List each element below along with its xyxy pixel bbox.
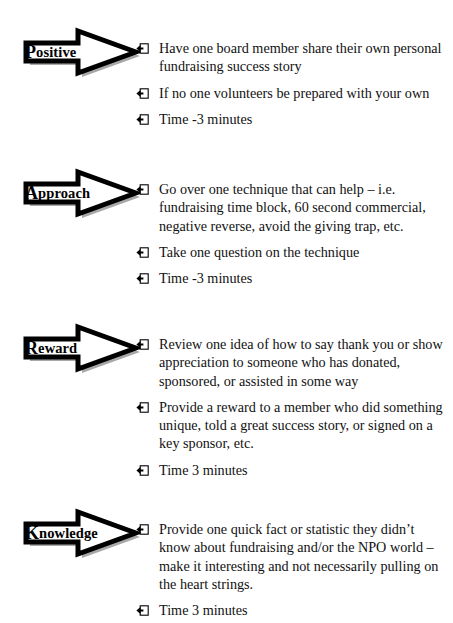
arrow-into-box-bullet-icon (136, 273, 149, 284)
arrow-into-box-bullet-icon (136, 88, 149, 99)
block-arrow-approach: Approach (18, 165, 143, 221)
arrow-label-positive: Positive (18, 24, 143, 80)
list-item-text: If no one volunteers be prepared with yo… (159, 84, 446, 102)
list-item-text: Provide a reward to a member who did som… (159, 398, 446, 453)
arrow-into-box-bullet-icon (136, 402, 149, 413)
arrow-label-initial: K (25, 524, 39, 542)
list-item-text: Time 3 minutes (159, 601, 446, 619)
bullet-list-knowledge: Provide one quick fact or statistic they… (136, 520, 446, 619)
list-item-text: Go over one technique that can help – i.… (159, 180, 446, 235)
list-item-text: Have one board member share their own pe… (159, 39, 446, 76)
arrow-label-initial: R (25, 339, 38, 357)
block-arrow-reward: Reward (18, 320, 143, 376)
arrow-into-box-bullet-icon (136, 524, 149, 535)
list-item: Provide one quick fact or statistic they… (136, 520, 446, 593)
list-item-text: Review one idea of how to say thank you … (159, 335, 446, 390)
list-item-text: Time 3 minutes (159, 461, 446, 479)
arrow-into-box-bullet-icon (136, 184, 149, 195)
arrow-label-rest: pproach (38, 186, 90, 201)
list-item: Time -3 minutes (136, 269, 446, 287)
list-item: Time -3 minutes (136, 110, 446, 128)
arrow-into-box-bullet-icon (136, 465, 149, 476)
arrow-into-box-bullet-icon (136, 43, 149, 54)
arrow-label-initial: P (25, 43, 36, 61)
list-item-text: Take one question on the technique (159, 243, 446, 261)
bullet-list-positive: Have one board member share their own pe… (136, 39, 446, 128)
list-item: Go over one technique that can help – i.… (136, 180, 446, 235)
arrow-into-box-bullet-icon (136, 114, 149, 125)
list-item: Take one question on the technique (136, 243, 446, 261)
arrow-label-reward: Reward (18, 320, 143, 376)
list-item: Time 3 minutes (136, 461, 446, 479)
list-item-text: Provide one quick fact or statistic they… (159, 520, 446, 593)
block-arrow-positive: Positive (18, 24, 143, 80)
arrow-into-box-bullet-icon (136, 247, 149, 258)
arrow-into-box-bullet-icon (136, 605, 149, 616)
slide-canvas: Positive Have one board member share the… (0, 0, 453, 623)
bullet-list-approach: Go over one technique that can help – i.… (136, 180, 446, 287)
list-item: If no one volunteers be prepared with yo… (136, 84, 446, 102)
list-item-text: Time -3 minutes (159, 110, 446, 128)
list-item: Time 3 minutes (136, 601, 446, 619)
list-item: Provide a reward to a member who did som… (136, 398, 446, 453)
list-item-text: Time -3 minutes (159, 269, 446, 287)
arrow-label-initial: A (25, 184, 38, 202)
arrow-label-rest: ositive (36, 45, 76, 60)
arrow-label-rest: eward (38, 341, 77, 356)
bullet-list-reward: Review one idea of how to say thank you … (136, 335, 446, 479)
block-arrow-knowledge: Knowledge (18, 505, 143, 561)
list-item: Have one board member share their own pe… (136, 39, 446, 76)
arrow-label-knowledge: Knowledge (18, 505, 143, 561)
arrow-label-approach: Approach (18, 165, 143, 221)
arrow-label-rest: nowledge (39, 526, 98, 541)
arrow-into-box-bullet-icon (136, 339, 149, 350)
list-item: Review one idea of how to say thank you … (136, 335, 446, 390)
